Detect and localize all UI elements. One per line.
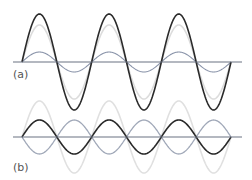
panel-b-destructive-interference	[13, 101, 242, 173]
panel-a-constructive-interference	[13, 14, 242, 110]
panel-a-label: (a)	[13, 69, 28, 80]
wave-interference-diagram	[0, 0, 252, 180]
panel-b-label: (b)	[13, 162, 29, 173]
